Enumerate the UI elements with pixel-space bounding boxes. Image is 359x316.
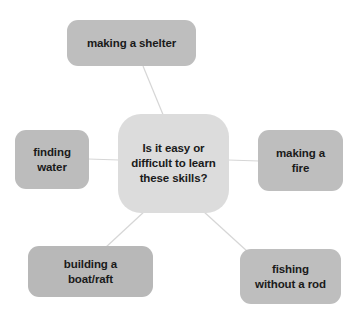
branch-node-making-a-shelter: making a shelter [67,20,196,66]
branch-node-finding-water: finding water [15,130,89,189]
connector-center-to-making-a-fire [228,160,259,161]
connector-center-to-fishing [203,211,248,252]
mind-map-diagram: Is it easy or difficult to learn these s… [0,0,359,316]
branch-node-making-a-fire: making a fire [258,130,343,191]
connector-center-to-building-a-boat [105,210,146,248]
branch-node-fishing-without-a-rod: fishing without a rod [240,249,341,304]
branch-node-label-making-a-shelter: making a shelter [83,36,180,51]
branch-node-building-a-boat-raft: building a boat/raft [28,246,153,297]
central-node-label: Is it easy or difficult to learn these s… [127,141,219,185]
branch-node-label-making-a-fire: making a fire [272,146,329,175]
central-node-question: Is it easy or difficult to learn these s… [118,114,229,213]
connector-center-to-shelter [143,66,164,117]
branch-node-label-finding-water: finding water [29,145,75,174]
branch-node-label-fishing-without-a-rod: fishing without a rod [251,262,330,291]
connector-center-to-finding-water [88,159,119,160]
branch-node-label-building-a-boat-raft: building a boat/raft [60,257,121,286]
